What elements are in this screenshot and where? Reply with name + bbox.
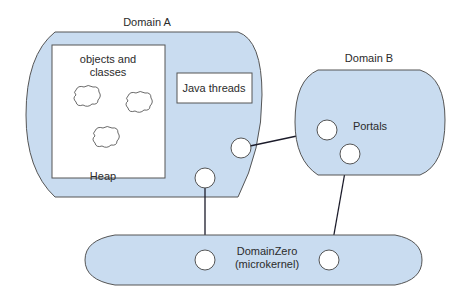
portal-circle xyxy=(231,138,251,158)
heap-box-label-line2: classes xyxy=(90,66,127,78)
portals-label: Portals xyxy=(353,120,388,132)
heap-box-label-line1: objects and xyxy=(80,53,136,65)
java-threads-label: Java threads xyxy=(183,82,246,94)
domain-diagram: Domain A objects and classes Java thread… xyxy=(0,0,465,300)
portal-circle xyxy=(340,144,360,164)
domain-zero-label-line1: DomainZero xyxy=(237,245,298,257)
heap-label: Heap xyxy=(90,170,116,182)
portal-circle xyxy=(317,120,337,140)
domain-a-title: Domain A xyxy=(123,16,171,28)
portal-circle xyxy=(195,168,215,188)
portal-circle xyxy=(195,250,215,270)
domain-zero-label-line2: (microkernel) xyxy=(235,258,299,270)
portal-circle xyxy=(319,250,339,270)
domain-b-title: Domain B xyxy=(345,52,393,64)
